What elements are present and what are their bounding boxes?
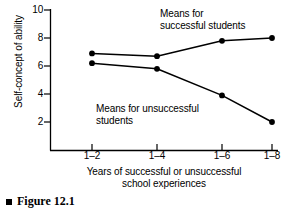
x-axis-tick-labels: 1–2 1–4 1–6 1–8 [0, 150, 286, 164]
y-tick-label-2: 2 [25, 117, 43, 127]
x-tick-label-2: 1–4 [149, 150, 165, 161]
y-axis-title: Self-concept of ability [13, 0, 24, 132]
x-tick-label-3: 1–6 [214, 150, 230, 161]
square-bullet-icon [6, 199, 12, 205]
y-tick-label-6: 6 [25, 61, 43, 71]
x-axis-title-line1: Years of successful or unsuccessful [87, 166, 242, 177]
x-tick-label-1: 1–2 [84, 150, 100, 161]
y-axis-ticks [44, 10, 50, 122]
annotation-unsuccessful-students: Means for unsuccessful students [96, 103, 199, 126]
y-tick-label-8: 8 [25, 33, 43, 43]
x-axis-title-line2: school experiences [45, 178, 283, 190]
annotation-unsuccessful-line2: students [96, 115, 199, 127]
annotation-successful-students: Means for successful students [160, 8, 245, 31]
chart-plot-area: 10 8 6 4 2 1–2 1–4 1–6 1–8 Self-concept … [0, 0, 286, 190]
figure-caption: Figure 12.1 [6, 195, 75, 208]
figure-container: 10 8 6 4 2 1–2 1–4 1–6 1–8 Self-concept … [0, 0, 286, 217]
y-tick-label-4: 4 [25, 89, 43, 99]
series-successful-students [89, 35, 275, 59]
figure-caption-text: Figure 12.1 [17, 195, 75, 208]
annotation-successful-line2: successful students [160, 20, 245, 32]
y-tick-label-10: 10 [25, 5, 43, 15]
annotation-unsuccessful-line1: Means for unsuccessful [96, 103, 199, 114]
x-axis-title: Years of successful or unsuccessful scho… [45, 166, 283, 189]
annotation-successful-line1: Means for [160, 8, 204, 19]
x-tick-label-4: 1–8 [264, 150, 280, 161]
